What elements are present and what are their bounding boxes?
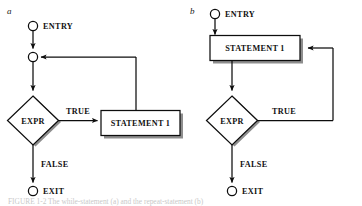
- entry-node-circle-b: [210, 9, 219, 18]
- entry-node-label-b: ENTRY: [225, 10, 255, 19]
- exit-node-label-a: EXIT: [43, 187, 65, 196]
- decision-node-label-b: EXPR: [220, 117, 244, 126]
- panel-b: b ENTRY STATEMENT 1 EXPR TRUE: [190, 6, 333, 196]
- statement-node-label-a: STATEMENT 1: [111, 119, 171, 128]
- edge-true-label-a: TRUE: [66, 107, 90, 116]
- junction-node-circle-a: [28, 52, 37, 61]
- decision-node-label-a: EXPR: [21, 117, 45, 126]
- panel-a-letter: a: [7, 6, 12, 16]
- exit-node-label-b: EXIT: [242, 187, 264, 196]
- figure-caption: FIGURE 1-2 The while-statement (a) and t…: [8, 197, 204, 206]
- entry-node-label-a: ENTRY: [43, 22, 73, 31]
- panel-b-letter: b: [190, 6, 195, 16]
- exit-node-circle-b: [227, 186, 236, 195]
- exit-node-circle-a: [28, 186, 37, 195]
- edge-false-label-a: FALSE: [41, 160, 69, 169]
- panel-a: a ENTRY EXPR TRUE STATEMENT 1: [7, 6, 183, 196]
- edge-true-label-b: TRUE: [272, 107, 296, 116]
- flowchart-figure: a ENTRY EXPR TRUE STATEMENT 1: [0, 0, 362, 206]
- entry-node-circle-a: [28, 21, 37, 30]
- figure-root: a ENTRY EXPR TRUE STATEMENT 1: [0, 0, 362, 206]
- statement-node-label-b: STATEMENT 1: [225, 44, 285, 53]
- edge-false-label-b: FALSE: [240, 160, 268, 169]
